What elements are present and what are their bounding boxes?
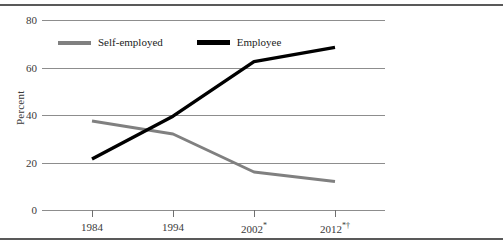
x-tick-1984 [92,210,93,217]
series-line-self-employed [92,121,335,182]
x-tick-2012 [335,210,336,217]
series-layer [42,20,385,210]
x-tick-label-1994: 1994 [162,222,184,233]
x-tick-label-1984: 1984 [81,222,103,233]
y-axis-title: Percent [14,91,26,125]
legend-label-self-employed: Self-employed [98,37,163,48]
x-tick-2002 [254,210,255,217]
legend-swatch-employee-icon [197,40,230,45]
y-tick-label-40: 40 [26,110,37,121]
figure-chart-employment-status: Percent 020406080 198419942002*2012*† Se… [0,0,503,250]
y-tick-label-0: 0 [32,205,38,216]
x-tick-label-footnote-marker: *† [342,221,350,230]
x-tick-label-footnote-marker: * [263,221,267,230]
plot-area: 020406080 198419942002*2012*† [42,20,385,210]
x-tick-label-2012: 2012*† [320,222,350,235]
series-line-employee [92,47,335,159]
y-tick-label-80: 80 [26,15,37,26]
x-tick-1994 [173,210,174,217]
gridline-0: 0 [42,210,385,211]
y-tick-label-60: 60 [26,62,37,73]
figure-top-rule [0,4,503,6]
x-tick-label-2002: 2002* [241,222,267,235]
y-tick-label-20: 20 [26,157,37,168]
figure-bottom-rule [0,238,503,240]
chart-legend: Self-employed Employee [58,37,281,48]
legend-swatch-self-employed-icon [58,41,91,45]
legend-item-self-employed: Self-employed [58,37,163,48]
legend-label-employee: Employee [237,37,282,48]
legend-item-employee: Employee [197,37,282,48]
